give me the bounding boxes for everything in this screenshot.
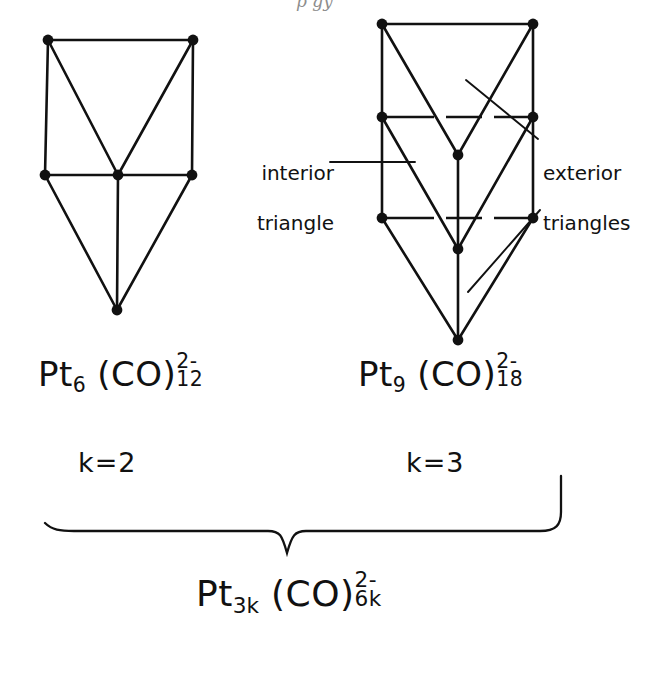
formula-general-metal-count: 3k [233, 593, 259, 618]
k-value-left: k=2 [78, 447, 136, 478]
interior-triangle-label: interior triangle [234, 136, 334, 236]
formula-pt6: Pt6 (CO)2-12 [38, 352, 203, 397]
interior-label-line2: triangle [257, 211, 334, 235]
formula-pt9-element: Pt [358, 354, 393, 394]
formula-pt6-metal-count: 6 [73, 373, 86, 397]
formula-pt6-ligand-count: 12 [176, 370, 203, 389]
exterior-triangles-label: exterior triangles [543, 136, 663, 236]
formula-pt6-charge-stack: 2-12 [176, 352, 203, 390]
formula-pt9: Pt9 (CO)2-18 [358, 352, 523, 397]
figure-root: p gy [0, 0, 668, 678]
exterior-leader-upper [466, 80, 538, 139]
formula-general-charge-stack: 2-6k [355, 570, 382, 610]
formula-pt9-ligand: (CO) [417, 354, 496, 394]
formula-pt9-charge-stack: 2-18 [496, 352, 523, 390]
formula-general-ligand-count: 6k [355, 589, 382, 610]
formula-pt9-ligand-count: 18 [496, 370, 523, 389]
formula-general: Pt3k (CO)2-6k [196, 570, 382, 618]
formula-pt9-metal-count: 9 [393, 373, 406, 397]
right-cluster-edges [382, 24, 533, 340]
formula-pt6-ligand: (CO) [97, 354, 176, 394]
formula-pt6-element: Pt [38, 354, 73, 394]
formula-general-ligand: (CO) [271, 573, 355, 614]
exterior-label-line1: exterior [543, 161, 621, 185]
exterior-leader-lower [468, 210, 540, 292]
grouping-brace [45, 476, 561, 553]
exterior-label-line2: triangles [543, 211, 631, 235]
interior-label-line1: interior [261, 161, 334, 185]
k-value-right: k=3 [406, 447, 464, 478]
formula-general-element: Pt [196, 573, 233, 614]
